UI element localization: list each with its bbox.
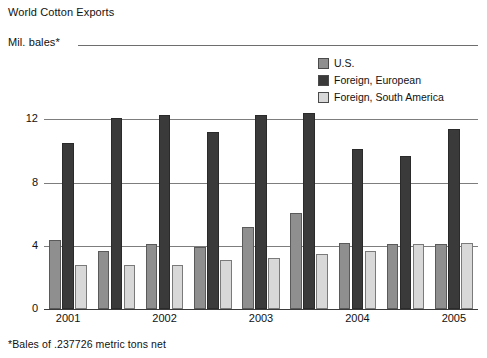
x-axis-tick-labels: 20012002200320042005 bbox=[44, 312, 478, 332]
x-tick-label-2005: 2005 bbox=[442, 312, 466, 324]
bar bbox=[339, 243, 351, 309]
axis-baseline bbox=[44, 309, 478, 310]
x-tick-label-2004: 2004 bbox=[345, 312, 369, 324]
bar bbox=[159, 115, 171, 309]
chart-legend: U.S. Foreign, European Foreign, South Am… bbox=[318, 55, 483, 106]
bar bbox=[146, 244, 158, 309]
y-tick-label-0: 0 bbox=[16, 302, 38, 314]
bar bbox=[111, 118, 123, 309]
y-tick-label-8: 8 bbox=[16, 176, 38, 188]
y-tick-label-4: 4 bbox=[16, 239, 38, 251]
legend-item-foreign-south-america: Foreign, South America bbox=[318, 89, 483, 105]
light-gray-swatch-icon bbox=[318, 92, 329, 103]
chart-title: World Cotton Exports bbox=[8, 6, 114, 18]
bar bbox=[435, 244, 447, 309]
legend-item-foreign-european: Foreign, European bbox=[318, 72, 483, 88]
bar bbox=[461, 243, 473, 309]
bar bbox=[172, 265, 184, 309]
bar bbox=[448, 129, 460, 309]
bar bbox=[194, 247, 206, 309]
y-axis-unit-label: Mil. bales* bbox=[8, 36, 60, 48]
legend-item-us: U.S. bbox=[318, 55, 483, 71]
bar bbox=[49, 240, 61, 309]
legend-label-foreign-south-america: Foreign, South America bbox=[334, 92, 444, 103]
header-rule bbox=[78, 45, 478, 46]
bar bbox=[303, 113, 315, 309]
bar bbox=[124, 265, 136, 309]
medium-gray-swatch-icon bbox=[318, 58, 329, 69]
bar bbox=[98, 251, 110, 309]
bar bbox=[400, 156, 412, 309]
bar bbox=[242, 227, 254, 309]
bar bbox=[255, 115, 267, 309]
bar bbox=[75, 265, 87, 309]
x-tick-label-2003: 2003 bbox=[249, 312, 273, 324]
bar bbox=[316, 254, 328, 309]
y-axis-tick-labels: 04812 bbox=[12, 110, 38, 309]
x-tick-label-2002: 2002 bbox=[152, 312, 176, 324]
legend-label-foreign-european: Foreign, European bbox=[334, 75, 421, 86]
bar bbox=[207, 132, 219, 309]
bar bbox=[62, 143, 74, 309]
bar bbox=[387, 244, 399, 309]
y-tick-label-12: 12 bbox=[16, 112, 38, 124]
legend-label-us: U.S. bbox=[334, 58, 354, 69]
bar bbox=[413, 244, 425, 309]
bar bbox=[220, 260, 232, 309]
plot-area bbox=[44, 110, 478, 309]
bar bbox=[365, 251, 377, 309]
bars-layer bbox=[44, 110, 478, 309]
bar bbox=[352, 149, 364, 309]
bar bbox=[268, 258, 280, 309]
chart-container: World Cotton Exports Mil. bales* U.S. Fo… bbox=[0, 0, 487, 358]
chart-footnote: *Bales of .237726 metric tons net bbox=[8, 338, 166, 350]
bar bbox=[290, 213, 302, 309]
dark-gray-swatch-icon bbox=[318, 75, 329, 86]
x-tick-label-2001: 2001 bbox=[56, 312, 80, 324]
